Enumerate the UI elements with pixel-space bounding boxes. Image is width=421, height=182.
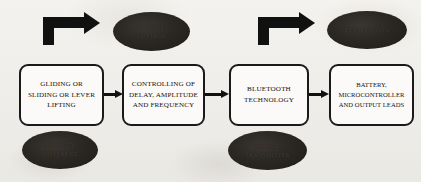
callout-activity-different-label: ACTIVITY DIFFERENT xyxy=(43,141,77,159)
callout-sensor-transmitter: SENSOR TRANSMITTER xyxy=(228,131,307,170)
stage-1-label: GLIDING OR SLIDING OR LEVER LIFTING xyxy=(24,79,99,111)
callout-beam-fitting: BEAM FITTING xyxy=(327,11,407,49)
callout-sensor-transmitter-label: SENSOR TRANSMITTER xyxy=(245,142,290,160)
stage-4-label: BATTERY, MICROCONTROLLER AND OUTPUT LEAD… xyxy=(334,80,409,110)
stage-box-controlling-delay-amplitude-frequency: CONTROLLING OF DELAY, AMPLITUDE AND FREQ… xyxy=(122,64,205,126)
callout-remote-control: REMOTE CONTROL xyxy=(113,12,190,51)
elbow-arrow-right xyxy=(258,17,316,45)
callout-activity-different: ACTIVITY DIFFERENT xyxy=(22,131,98,169)
stage-box-gliding-sliding-lever-lifting: GLIDING OR SLIDING OR LEVER LIFTING xyxy=(19,64,104,126)
connector-arrow-stage2-stage3 xyxy=(204,90,230,99)
stage-box-battery-microcontroller-output-leads: BATTERY, MICROCONTROLLER AND OUTPUT LEAD… xyxy=(329,64,414,126)
stage-3-label: BLUETOOTH TECHNOLOGY xyxy=(234,84,304,106)
callout-beam-fitting-label: BEAM FITTING xyxy=(345,26,390,35)
stage-box-bluetooth-technology: BLUETOOTH TECHNOLOGY xyxy=(229,64,309,126)
block-diagram-canvas: REMOTE CONTROL BEAM FITTING ACTIVITY DIF… xyxy=(0,0,421,182)
connector-arrow-stage3-stage4 xyxy=(308,90,330,99)
callout-remote-control-label: REMOTE CONTROL xyxy=(137,23,167,41)
elbow-arrow-left xyxy=(43,17,101,45)
stage-2-label: CONTROLLING OF DELAY, AMPLITUDE AND FREQ… xyxy=(127,79,200,111)
connector-arrow-stage1-stage2 xyxy=(103,90,124,99)
